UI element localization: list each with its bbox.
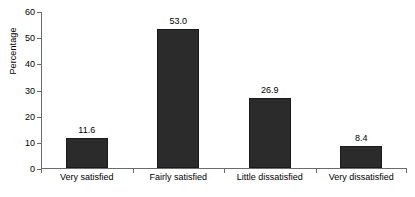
bar-slot: 11.6 <box>41 12 133 168</box>
y-axis-tick-label: 50 <box>25 33 35 43</box>
bar-value-label: 11.6 <box>78 125 95 135</box>
y-axis-title: Percentage <box>8 0 18 116</box>
y-axis-tick-label: 40 <box>25 59 35 69</box>
bar[interactable] <box>66 138 108 168</box>
bar-chart-figure: Percentage 0102030405060 11.653.026.98.4… <box>0 0 415 197</box>
x-axis-category-label: Fairly satisfied <box>149 172 207 182</box>
bar[interactable] <box>340 146 382 168</box>
bar-value-label: 26.9 <box>261 85 279 95</box>
bar-slot: 8.4 <box>316 12 408 168</box>
y-axis-tick-label: 60 <box>25 7 35 17</box>
x-axis-category-label: Very satisfied <box>60 172 114 182</box>
bar-slot: 53.0 <box>133 12 225 168</box>
bar[interactable] <box>249 98 291 168</box>
x-axis-category-label: Little dissatisfied <box>237 172 303 182</box>
bar-value-label: 53.0 <box>169 16 187 26</box>
y-axis-tick-label: 20 <box>25 112 35 122</box>
plot-area: 0102030405060 11.653.026.98.4 <box>41 12 407 169</box>
y-axis-tick-label: 10 <box>25 138 35 148</box>
x-axis-category-label: Very dissatisfied <box>329 172 394 182</box>
bar[interactable] <box>157 29 199 168</box>
x-axis-category-labels: Very satisfiedFairly satisfiedLittle dis… <box>41 172 407 188</box>
y-axis-tick-label: 0 <box>30 164 35 174</box>
bar-value-label: 8.4 <box>355 133 368 143</box>
bar-slot: 26.9 <box>224 12 316 168</box>
y-axis-tick-label: 30 <box>25 86 35 96</box>
